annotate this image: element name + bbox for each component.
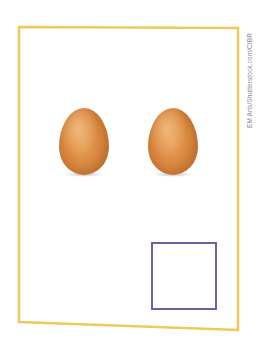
answer-box[interactable] <box>151 242 217 310</box>
frame-border <box>0 0 257 337</box>
image-credit: EM Arts/Shutterstock.com/CIBR <box>246 33 253 128</box>
card-frame <box>0 0 257 337</box>
